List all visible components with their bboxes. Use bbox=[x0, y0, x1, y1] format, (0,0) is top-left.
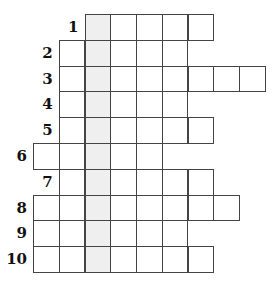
crossword-cell[interactable] bbox=[110, 195, 137, 222]
row-number: 6 bbox=[3, 148, 27, 164]
row-number: 2 bbox=[29, 45, 53, 61]
crossword-cell[interactable] bbox=[59, 169, 86, 196]
crossword-cell[interactable] bbox=[59, 143, 86, 170]
row-number: 8 bbox=[3, 200, 27, 216]
crossword-cell[interactable] bbox=[188, 195, 215, 222]
crossword-cell[interactable] bbox=[59, 220, 86, 247]
crossword-cell-highlighted[interactable] bbox=[85, 40, 112, 67]
crossword-cell-highlighted[interactable] bbox=[85, 14, 112, 41]
row-number: 3 bbox=[29, 71, 53, 87]
crossword-cell[interactable] bbox=[110, 66, 137, 93]
crossword-cell[interactable] bbox=[136, 195, 163, 222]
crossword-cell[interactable] bbox=[33, 195, 60, 222]
row-number: 7 bbox=[29, 174, 53, 190]
crossword-cell-highlighted[interactable] bbox=[85, 220, 112, 247]
crossword-cell[interactable] bbox=[110, 220, 137, 247]
crossword-cell[interactable] bbox=[136, 14, 163, 41]
crossword-cell[interactable] bbox=[162, 117, 189, 144]
crossword-cell[interactable] bbox=[136, 91, 163, 118]
crossword-cell[interactable] bbox=[110, 143, 137, 170]
crossword-cell[interactable] bbox=[162, 195, 189, 222]
crossword-grid: 12345678910 bbox=[0, 0, 276, 286]
crossword-cell[interactable] bbox=[162, 220, 189, 247]
crossword-cell[interactable] bbox=[162, 246, 189, 273]
crossword-cell[interactable] bbox=[136, 246, 163, 273]
crossword-cell-highlighted[interactable] bbox=[85, 169, 112, 196]
crossword-cell[interactable] bbox=[239, 66, 266, 93]
crossword-cell-highlighted[interactable] bbox=[85, 91, 112, 118]
crossword-cell[interactable] bbox=[162, 66, 189, 93]
crossword-cell[interactable] bbox=[33, 246, 60, 273]
row-number: 4 bbox=[29, 96, 53, 112]
crossword-cell[interactable] bbox=[136, 40, 163, 67]
crossword-cell[interactable] bbox=[59, 91, 86, 118]
crossword-cell[interactable] bbox=[33, 143, 60, 170]
crossword-cell[interactable] bbox=[59, 40, 86, 67]
crossword-cell[interactable] bbox=[110, 117, 137, 144]
crossword-cell[interactable] bbox=[188, 169, 215, 196]
crossword-cell[interactable] bbox=[188, 117, 215, 144]
row-number: 5 bbox=[29, 122, 53, 138]
crossword-cell[interactable] bbox=[59, 246, 86, 273]
crossword-cell[interactable] bbox=[59, 117, 86, 144]
crossword-cell[interactable] bbox=[136, 143, 163, 170]
crossword-cell[interactable] bbox=[213, 195, 240, 222]
crossword-cell-highlighted[interactable] bbox=[85, 246, 112, 273]
crossword-cell-highlighted[interactable] bbox=[85, 143, 112, 170]
crossword-cell[interactable] bbox=[162, 91, 189, 118]
crossword-cell[interactable] bbox=[59, 195, 86, 222]
crossword-cell[interactable] bbox=[136, 117, 163, 144]
crossword-cell[interactable] bbox=[59, 66, 86, 93]
crossword-cell[interactable] bbox=[136, 169, 163, 196]
crossword-cell[interactable] bbox=[162, 40, 189, 67]
crossword-cell-highlighted[interactable] bbox=[85, 117, 112, 144]
row-number: 9 bbox=[3, 225, 27, 241]
crossword-cell[interactable] bbox=[162, 14, 189, 41]
crossword-cell[interactable] bbox=[110, 40, 137, 67]
crossword-cell-highlighted[interactable] bbox=[85, 66, 112, 93]
crossword-cell[interactable] bbox=[110, 14, 137, 41]
crossword-cell[interactable] bbox=[136, 66, 163, 93]
crossword-cell[interactable] bbox=[188, 66, 215, 93]
crossword-cell[interactable] bbox=[188, 14, 215, 41]
crossword-cell[interactable] bbox=[33, 220, 60, 247]
crossword-cell-highlighted[interactable] bbox=[85, 195, 112, 222]
crossword-cell[interactable] bbox=[110, 246, 137, 273]
crossword-cell[interactable] bbox=[188, 246, 215, 273]
crossword-cell[interactable] bbox=[110, 169, 137, 196]
crossword-cell[interactable] bbox=[162, 169, 189, 196]
row-number: 1 bbox=[55, 19, 79, 35]
crossword-cell[interactable] bbox=[213, 66, 240, 93]
row-number: 10 bbox=[3, 251, 27, 267]
crossword-cell[interactable] bbox=[136, 220, 163, 247]
crossword-cell[interactable] bbox=[110, 91, 137, 118]
